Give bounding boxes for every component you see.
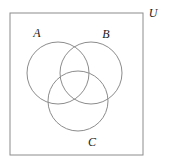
label-set-a: A — [32, 26, 41, 40]
universal-set-rectangle — [10, 13, 143, 155]
venn-diagram-figure: U A B C — [0, 0, 169, 163]
set-circle-b — [60, 42, 122, 104]
label-set-b: B — [102, 27, 110, 41]
set-circle-a — [27, 42, 89, 104]
label-universal-set: U — [149, 6, 159, 20]
label-set-c: C — [88, 135, 97, 149]
venn-diagram-canvas: U A B C — [0, 0, 169, 163]
